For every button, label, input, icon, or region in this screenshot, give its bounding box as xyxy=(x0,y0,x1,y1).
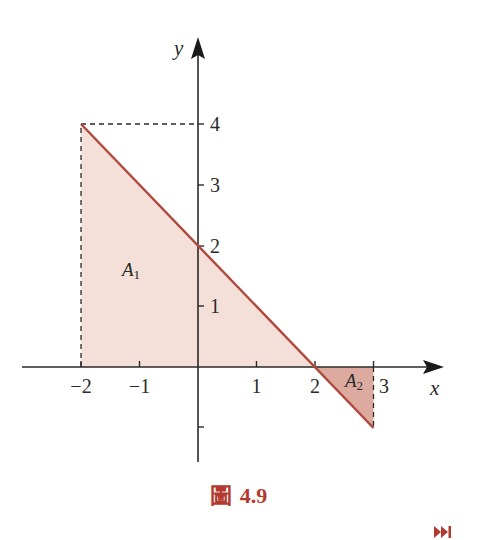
x-tick-label: 1 xyxy=(252,375,262,397)
y-tick-label: 4 xyxy=(210,113,220,135)
y-tick-label: 2 xyxy=(210,235,220,257)
x-tick-label: −1 xyxy=(129,375,150,397)
integral-area-chart: −2 −1 1 2 3 4 3 2 1 y x A1 A2 xyxy=(0,0,477,540)
caption-number: 4.9 xyxy=(240,483,268,508)
figure-caption: 圖4.9 xyxy=(0,477,477,509)
next-page-button[interactable] xyxy=(433,525,453,539)
fast-forward-icon xyxy=(433,525,453,539)
x-tick-label: 3 xyxy=(379,375,389,397)
x-axis-label: x xyxy=(429,376,440,400)
y-axis-label: y xyxy=(172,36,184,60)
caption-prefix: 圖 xyxy=(210,483,232,508)
x-tick-label: 2 xyxy=(310,375,320,397)
y-tick-label: 3 xyxy=(210,174,220,196)
y-tick-label: 1 xyxy=(210,295,220,317)
x-tick-label: −2 xyxy=(70,375,91,397)
